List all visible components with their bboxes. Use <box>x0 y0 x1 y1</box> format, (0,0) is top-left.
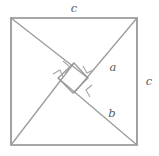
leg-label-b: b <box>108 106 115 120</box>
right-angle-mark-bottom <box>86 85 92 97</box>
triangle-cut-bottom-right <box>58 78 137 145</box>
outer-square-side-c <box>11 18 137 145</box>
side-label-c-top: c <box>71 1 78 15</box>
pythagorean-diagram-figure: c c a b <box>0 0 159 156</box>
right-angle-mark-left <box>53 70 63 77</box>
side-label-c-right: c <box>146 74 153 88</box>
leg-label-a: a <box>110 60 117 74</box>
triangle-cut-top-left <box>11 18 88 78</box>
triangle-cut-bottom-left <box>11 63 74 145</box>
geometry-canvas: c c a b <box>0 0 159 156</box>
